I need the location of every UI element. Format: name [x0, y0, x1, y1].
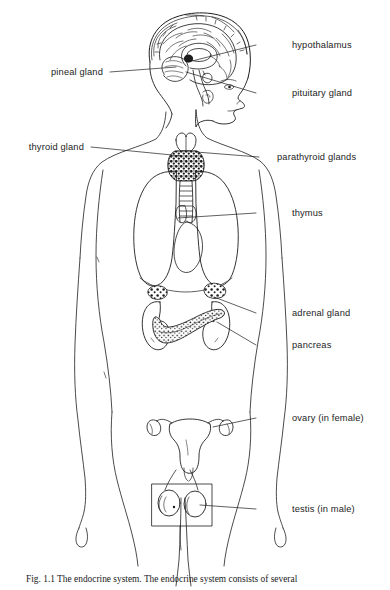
- reproductive-male: [152, 470, 212, 550]
- caption-text: The endocrine system. The endocrine syst…: [57, 574, 297, 584]
- pituitary-body: [203, 73, 212, 83]
- label-parathyroid-glands: parathyroid glands: [277, 153, 356, 162]
- adrenal-right: [148, 286, 167, 300]
- thyroid-body: [168, 151, 204, 181]
- head-sagittal: [149, 13, 250, 128]
- ovary-left: [219, 420, 233, 436]
- label-ovary-in-female: ovary (in female): [292, 414, 364, 423]
- label-pancreas: pancreas: [292, 341, 331, 350]
- kidney-left: [203, 302, 230, 350]
- thorax: [134, 172, 239, 293]
- uterus: [169, 424, 210, 473]
- label-thyroid-gland: thyroid gland: [14, 143, 84, 152]
- testis-right: [184, 491, 206, 517]
- label-adrenal-gland: adrenal gland: [292, 309, 350, 318]
- adrenal-left: [204, 283, 226, 298]
- figure-caption: Fig. 1.1 The endocrine system. The endoc…: [26, 574, 376, 590]
- label-testis-in-male: testis (in male): [292, 505, 355, 514]
- lung-right: [134, 172, 176, 286]
- label-thymus: thymus: [292, 209, 323, 218]
- lung-left: [196, 172, 238, 286]
- ovary-right: [147, 420, 161, 436]
- reproductive-female: [147, 419, 233, 481]
- label-hypothalamus: hypothalamus: [292, 41, 352, 50]
- heart: [174, 222, 203, 272]
- caption-label: Fig. 1.1: [26, 574, 55, 584]
- label-pituitary-gland: pituitary gland: [292, 89, 352, 98]
- label-pineal-gland: pineal gland: [43, 68, 103, 77]
- abdomen: [142, 283, 230, 350]
- pancreas-body: [153, 309, 225, 343]
- endocrine-system-figure: hypothalamus pineal gland pituitary glan…: [0, 0, 390, 590]
- thymus-body: [176, 206, 187, 223]
